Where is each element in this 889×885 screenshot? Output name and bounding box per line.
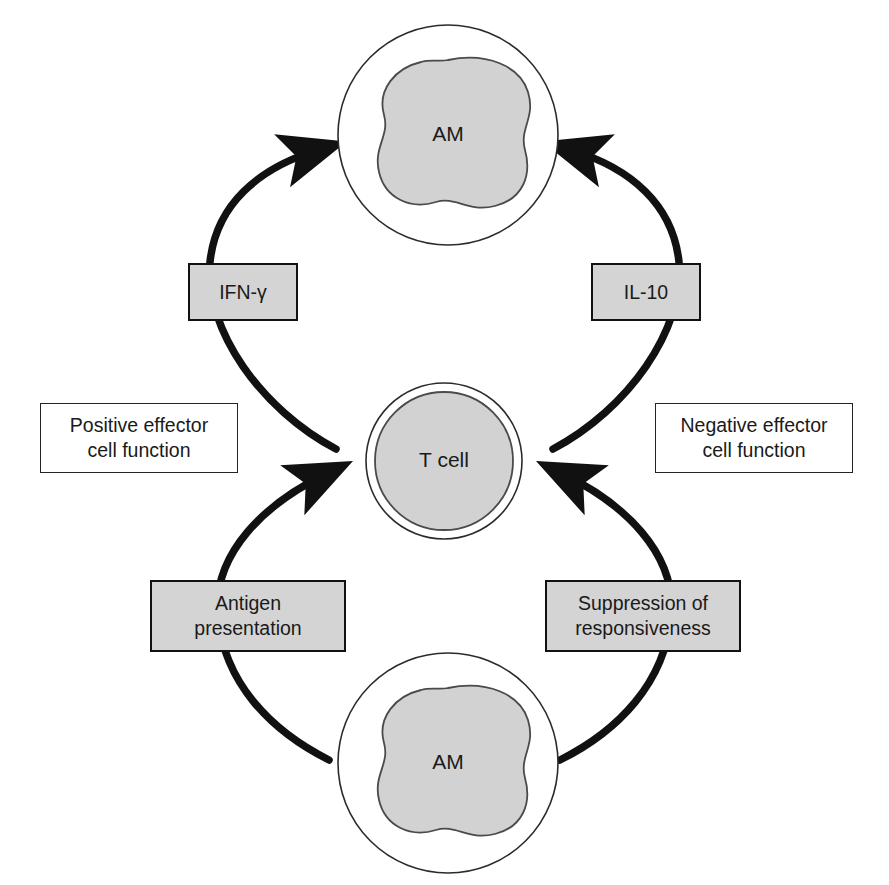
process-line-1: Antigen (215, 592, 281, 614)
process-box-antigen-presentation[interactable]: Antigen presentation (150, 580, 346, 652)
mediator-label-ifn-gamma: IFN-γ (213, 280, 273, 305)
am-top-label: AM (432, 122, 464, 145)
immunology-cycle-diagram: AM T cell AM IFN-γ IL-10 Antigen present… (0, 0, 889, 885)
annotation-label-positive-effector: Positive effector cell function (64, 413, 214, 463)
annotation-label-negative-effector: Negative effector cell function (674, 413, 833, 463)
mediator-label-il-10: IL-10 (618, 280, 674, 305)
process-line-1: Suppression of (578, 592, 708, 614)
am-bottom-label: AM (432, 750, 464, 773)
annotation-line-1: Positive effector (70, 414, 208, 436)
process-box-suppression-of-responsiveness[interactable]: Suppression of responsiveness (545, 580, 741, 652)
mediator-box-il-10[interactable]: IL-10 (591, 263, 701, 321)
process-label-suppression-of-responsiveness: Suppression of responsiveness (569, 591, 717, 641)
annotation-line-2: cell function (703, 439, 806, 461)
cell-am-top: AM (338, 25, 558, 245)
cell-t-cell: T cell (366, 383, 522, 539)
annotation-line-2: cell function (88, 439, 191, 461)
process-line-2: presentation (194, 617, 301, 639)
process-line-2: responsiveness (575, 617, 711, 639)
annotation-line-1: Negative effector (680, 414, 827, 436)
cell-am-bottom: AM (338, 653, 558, 873)
annotation-box-negative-effector: Negative effector cell function (655, 403, 853, 473)
annotation-box-positive-effector: Positive effector cell function (40, 403, 238, 473)
t-cell-label: T cell (419, 448, 469, 471)
mediator-box-ifn-gamma[interactable]: IFN-γ (188, 263, 298, 321)
process-label-antigen-presentation: Antigen presentation (188, 591, 307, 641)
